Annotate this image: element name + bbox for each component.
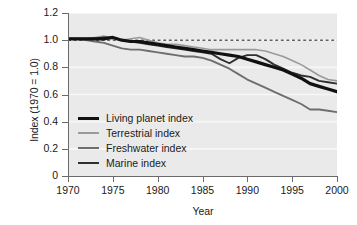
- y-tick-label: 0.6: [18, 89, 58, 100]
- x-tick-label: 2000: [315, 185, 357, 196]
- legend-label: Living planet index: [106, 111, 193, 126]
- x-tick: [158, 176, 159, 182]
- y-tick-label: 0.8: [18, 61, 58, 72]
- x-tick-label: 1985: [181, 185, 225, 196]
- series-line: [68, 37, 337, 91]
- chart-legend: Living planet index Terrestrial index Fr…: [78, 111, 228, 171]
- y-tick: [62, 149, 68, 150]
- x-axis-title: Year: [68, 205, 338, 217]
- legend-swatch-marine-index: [78, 162, 99, 164]
- x-tick-label: 1980: [136, 185, 180, 196]
- y-tick: [62, 122, 68, 123]
- y-tick-label: 1.2: [18, 7, 58, 18]
- legend-label: Terrestrial index: [106, 126, 180, 141]
- legend-item: Freshwater index: [78, 141, 228, 156]
- y-tick: [62, 13, 68, 14]
- x-tick-label: 1990: [225, 185, 269, 196]
- y-tick: [62, 40, 68, 41]
- chart-figure: Index (1970 = 1.0) 00.20.40.60.81.01.2 1…: [0, 0, 357, 225]
- x-tick: [292, 176, 293, 182]
- y-tick-label: 0.2: [18, 143, 58, 154]
- series-lines: [68, 36, 337, 112]
- x-tick: [247, 176, 248, 182]
- legend-item: Terrestrial index: [78, 126, 228, 141]
- y-axis-spine: [68, 13, 69, 177]
- x-tick: [337, 176, 338, 182]
- x-tick: [113, 176, 114, 182]
- legend-label: Freshwater index: [106, 141, 187, 156]
- legend-swatch-terrestrial-index: [78, 132, 99, 134]
- x-tick: [68, 176, 69, 182]
- legend-label: Marine index: [106, 156, 166, 171]
- y-tick: [62, 67, 68, 68]
- legend-item: Living planet index: [78, 111, 228, 126]
- y-tick-label: 0.4: [18, 116, 58, 127]
- legend-swatch-living-planet-index: [78, 117, 99, 120]
- x-tick-label: 1995: [270, 185, 314, 196]
- y-tick-label: 1.0: [18, 34, 58, 45]
- x-tick-label: 1975: [91, 185, 135, 196]
- y-tick: [62, 95, 68, 96]
- y-tick-label: 0: [18, 170, 58, 181]
- x-tick-label: 1970: [46, 185, 90, 196]
- legend-swatch-freshwater-index: [78, 147, 99, 149]
- legend-item: Marine index: [78, 156, 228, 171]
- x-tick: [203, 176, 204, 182]
